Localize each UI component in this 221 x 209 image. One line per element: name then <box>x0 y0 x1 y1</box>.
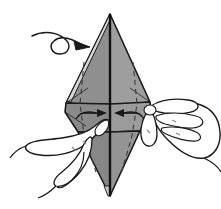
origami-diagram: Origami folding step diagram A tall diam… <box>0 0 221 209</box>
right-thumb-nail <box>144 105 156 115</box>
origami-illustration <box>0 0 221 209</box>
